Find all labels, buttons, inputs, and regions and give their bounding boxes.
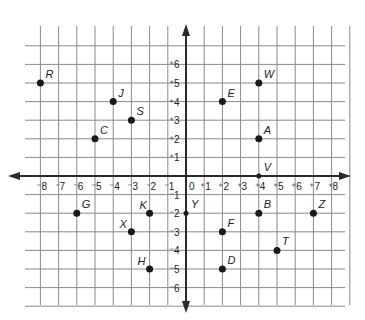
point-label: T (282, 235, 290, 247)
y-tick-label: ⁺1 (169, 152, 180, 163)
point-t (274, 247, 281, 254)
point-label: E (227, 87, 235, 99)
point-h (146, 266, 153, 273)
point-j (110, 98, 117, 105)
point-c (92, 135, 99, 142)
point-label: A (263, 124, 271, 136)
x-tick-label: ⁻3 (127, 181, 138, 192)
x-tick-label: ⁻2 (146, 181, 157, 192)
point-label: D (227, 254, 235, 266)
point-label: C (100, 124, 108, 136)
x-tick-label: ⁺2 (218, 181, 229, 192)
point-z (310, 210, 317, 217)
point-w (255, 80, 262, 87)
x-tick-label: ⁻5 (91, 181, 102, 192)
arrow-up-icon (182, 24, 190, 36)
y-tick-label: ⁺3 (169, 115, 180, 126)
y-tick-label: ⁺4 (169, 97, 180, 108)
x-tick-label: ⁺4 (255, 181, 266, 192)
y-tick-label: ⁻2 (169, 208, 180, 219)
point-x (128, 228, 135, 235)
y-tick-label: ⁻5 (169, 264, 180, 275)
point-label: J (117, 87, 124, 99)
y-tick-label: ⁺2 (169, 134, 180, 145)
x-tick-label: ⁺8 (328, 181, 339, 192)
y-tick-label: ⁻3 (169, 227, 180, 238)
point-label: X (118, 218, 127, 230)
point-r (37, 80, 44, 87)
point-label: Y (191, 198, 199, 210)
x-tick-label: ⁻4 (109, 181, 120, 192)
point-label: K (140, 199, 148, 211)
point-label: H (138, 255, 146, 267)
x-tick-label: ⁻6 (73, 181, 84, 192)
point-a (255, 135, 262, 142)
point-e (219, 98, 226, 105)
point-label: F (227, 217, 235, 229)
y-tick-label: ⁺6 (169, 59, 180, 70)
point-v (256, 174, 261, 179)
y-tick-label: ⁺5 (169, 78, 180, 89)
y-tick-label: ⁻1 (169, 190, 180, 201)
x-tick-label: ⁻7 (55, 181, 66, 192)
y-tick-label: ⁻6 (169, 283, 180, 294)
x-tick-label: ⁺6 (291, 181, 302, 192)
point-g (73, 210, 80, 217)
point-label: S (136, 105, 144, 117)
x-tick-label: ⁺3 (237, 181, 248, 192)
point-label: V (264, 161, 273, 173)
point-label: R (45, 68, 53, 80)
grid-lines (25, 26, 350, 306)
point-label: W (264, 68, 276, 80)
x-tick-label: 0 (189, 181, 195, 192)
point-s (128, 117, 135, 124)
arrow-left-icon (8, 172, 20, 180)
point-b (255, 210, 262, 217)
point-label: Z (317, 198, 326, 210)
coordinate-plane: ⁻8⁻7⁻6⁻5⁻4⁻3⁻2⁻10⁺1⁺2⁺3⁺4⁺5⁺6⁺7⁺8⁺6⁺5⁺4⁺… (0, 0, 365, 320)
x-tick-label: ⁺5 (273, 181, 284, 192)
point-y (184, 211, 189, 216)
point-k (146, 210, 153, 217)
x-tick-label: ⁻8 (36, 181, 47, 192)
plot-svg: ⁻8⁻7⁻6⁻5⁻4⁻3⁻2⁻10⁺1⁺2⁺3⁺4⁺5⁺6⁺7⁺8⁺6⁺5⁺4⁺… (0, 0, 365, 320)
x-tick-label: ⁺1 (200, 181, 211, 192)
x-tick-label: ⁺7 (309, 181, 320, 192)
arrow-right-icon (339, 172, 351, 180)
y-tick-label: ⁻4 (169, 245, 180, 256)
point-label: B (264, 198, 271, 210)
point-label: G (82, 198, 91, 210)
point-f (219, 228, 226, 235)
point-d (219, 266, 226, 273)
arrow-down-icon (182, 301, 190, 313)
